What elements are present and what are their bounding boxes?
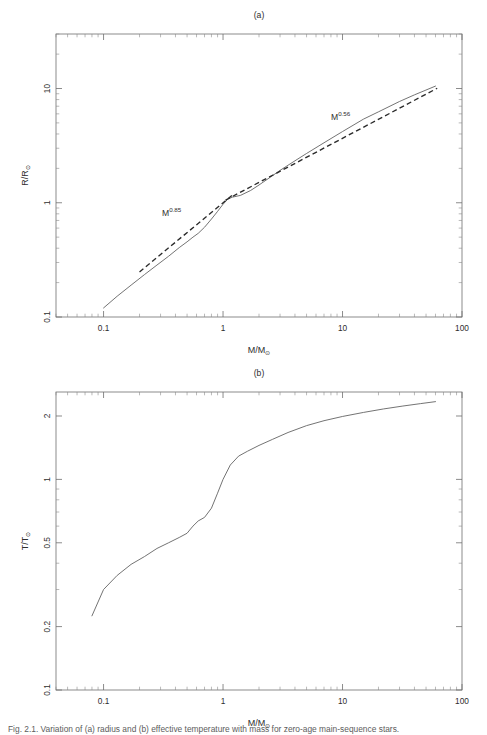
- plot-frame: [56, 392, 462, 690]
- y-tick-label: 10: [42, 84, 52, 94]
- model-curve: [92, 402, 436, 616]
- x-tick-label: 10: [338, 323, 348, 333]
- x-tick-label: 0.1: [98, 323, 110, 333]
- figure-container: 0.11101001010.1R/R⊙M/M⊙(a)M0.85M0.56 0.1…: [0, 0, 487, 735]
- x-axis-title: M/M⊙: [248, 345, 271, 356]
- x-tick-label: 10: [338, 696, 348, 706]
- y-tick-label: 1: [42, 477, 52, 482]
- low-mass-powerlaw-label: M0.85: [162, 206, 182, 218]
- x-tick-label: 1: [221, 323, 226, 333]
- x-tick-label: 100: [455, 696, 469, 706]
- x-tick-label: 100: [455, 323, 469, 333]
- y-tick-label: 1: [42, 200, 52, 205]
- powerlaw-fit-line: [140, 194, 234, 272]
- panel-a-radius-vs-mass: 0.11101001010.1R/R⊙M/M⊙(a)M0.85M0.56: [0, 0, 487, 368]
- y-tick-label: 0.2: [42, 620, 52, 632]
- plot-frame: [56, 34, 462, 317]
- powerlaw-fit-line: [226, 88, 438, 200]
- x-tick-label: 0.1: [98, 696, 110, 706]
- y-axis-title: R/R⊙: [20, 165, 31, 186]
- figure-caption: Fig. 2.1. Variation of (a) radius and (b…: [8, 724, 480, 735]
- y-tick-label: 2: [42, 413, 52, 418]
- y-tick-label: 0.5: [42, 537, 52, 549]
- panel-b-temperature-vs-mass: 0.1110100210.50.20.1T/T⊙M/M⊙(b): [0, 367, 487, 735]
- x-tick-label: 1: [221, 696, 226, 706]
- y-tick-label: 0.1: [42, 311, 52, 323]
- y-axis-title: T/T⊙: [20, 532, 31, 551]
- model-curve: [104, 86, 436, 308]
- high-mass-powerlaw-label: M0.56: [331, 110, 351, 122]
- panel-title: (b): [254, 368, 265, 378]
- panel-title: (a): [254, 10, 265, 20]
- y-tick-label: 0.1: [42, 684, 52, 696]
